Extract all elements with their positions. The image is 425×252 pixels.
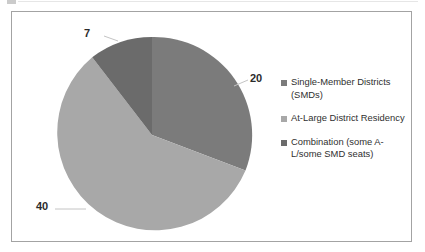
data-label-slice-three: 7: [84, 27, 90, 39]
data-label-slice-one: 20: [250, 72, 262, 84]
legend-item-single-member-districts[interactable]: Single-Member Districts (SMDs): [281, 76, 413, 101]
legend-item-label: Single-Member Districts (SMDs): [291, 76, 391, 101]
leader-line-slice-three: [104, 36, 118, 41]
legend-item-label: At-Large District Residency: [291, 112, 405, 125]
legend-item-combination[interactable]: Combination (some A- L/some SMD seats): [281, 136, 413, 161]
chart-legend: Single-Member Districts (SMDs) At-Large …: [281, 76, 413, 172]
data-label-slice-two: 40: [36, 200, 48, 212]
legend-item-at-large-district-residency[interactable]: At-Large District Residency: [281, 112, 413, 125]
screenshot-root: 7 20 40 Single-Member Districts (SMDs) A…: [0, 0, 425, 252]
legend-item-label: Combination (some A- L/some SMD seats): [291, 136, 384, 161]
legend-swatch-icon: [281, 116, 287, 122]
legend-swatch-icon: [281, 80, 287, 86]
legend-swatch-icon: [281, 140, 287, 146]
